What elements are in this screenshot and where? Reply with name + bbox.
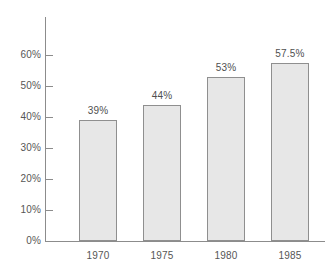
y-axis-tick-label-text: 20% bbox=[20, 173, 41, 184]
bar-value-label: 44% bbox=[132, 90, 192, 101]
y-axis-tick bbox=[46, 148, 53, 149]
y-axis-tick-label: 30% bbox=[0, 142, 41, 154]
y-axis-tick-label-text: 50% bbox=[20, 80, 41, 91]
bar-value-label: 57.5% bbox=[260, 48, 320, 59]
x-axis-tick-label: 1970 bbox=[65, 250, 131, 261]
y-axis-tick-label: 50% bbox=[0, 80, 41, 92]
y-axis-tick-label: 10% bbox=[0, 204, 41, 216]
y-axis-tick bbox=[46, 86, 53, 87]
bar bbox=[143, 105, 181, 241]
y-axis-tick-label-text: 0% bbox=[26, 235, 41, 246]
y-axis-tick-label: 60% bbox=[0, 49, 41, 61]
bar-value-label: 53% bbox=[196, 62, 256, 73]
y-axis-tick-label-text: 10% bbox=[20, 204, 41, 215]
y-axis-tick-label: 0% bbox=[0, 235, 41, 247]
x-axis-tick-label: 1975 bbox=[129, 250, 195, 261]
y-axis-tick-label-text: 30% bbox=[20, 142, 41, 153]
y-axis-tick-label-text: 40% bbox=[20, 111, 41, 122]
y-axis-tick bbox=[46, 210, 53, 211]
x-axis-tick-label: 1985 bbox=[257, 250, 323, 261]
y-axis-line bbox=[45, 17, 46, 242]
y-axis-tick bbox=[46, 179, 53, 180]
bar-value-label: 39% bbox=[68, 105, 128, 116]
y-axis-tick bbox=[46, 117, 53, 118]
y-axis-tick-label: 40% bbox=[0, 111, 41, 123]
y-axis-tick-label-text: 60% bbox=[20, 49, 41, 60]
x-axis-line bbox=[45, 241, 325, 242]
bar bbox=[79, 120, 117, 241]
x-axis-tick-label: 1980 bbox=[193, 250, 259, 261]
bar-chart: 0%10%20%30%40%50%60% 39%44%53%57.5% 1970… bbox=[0, 0, 336, 273]
y-axis-tick-label: 20% bbox=[0, 173, 41, 185]
bar bbox=[271, 63, 309, 241]
y-axis-tick bbox=[46, 55, 53, 56]
bar bbox=[207, 77, 245, 241]
